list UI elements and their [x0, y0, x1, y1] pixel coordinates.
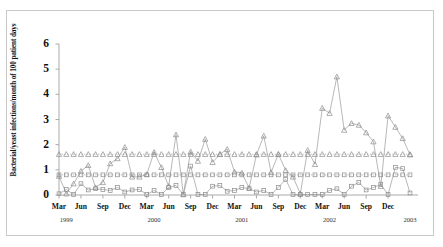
x-axis-year-label: 2002: [313, 216, 347, 223]
figure-container: Bacterial/yeast infections/month of 100 …: [0, 0, 443, 247]
y-tick-label: 5: [33, 62, 49, 74]
y-tick-label: 2: [33, 138, 49, 150]
x-tick-label: Dec: [373, 202, 403, 211]
data-point-marker: [350, 173, 354, 177]
x-axis-year-label: 2001: [225, 216, 259, 223]
data-point-marker: [86, 173, 90, 177]
series-yeast-infection-mean-reference: [57, 173, 412, 177]
y-tick-label: 1: [33, 163, 49, 175]
data-point-marker: [218, 173, 222, 177]
x-axis-year-label: 2003: [393, 216, 427, 223]
x-axis-year-label: 1999: [49, 216, 83, 223]
x-axis-year-label: 2000: [137, 216, 171, 223]
series-bacterial-infection-mean-reference: [56, 152, 412, 157]
data-point-marker: [284, 173, 288, 177]
y-tick-label: 0: [33, 188, 49, 200]
series-bacterial-infection-rate: [56, 74, 412, 197]
y-tick-label: 3: [33, 113, 49, 125]
y-tick-label: 6: [33, 37, 49, 49]
y-tick-label: 4: [33, 87, 49, 99]
